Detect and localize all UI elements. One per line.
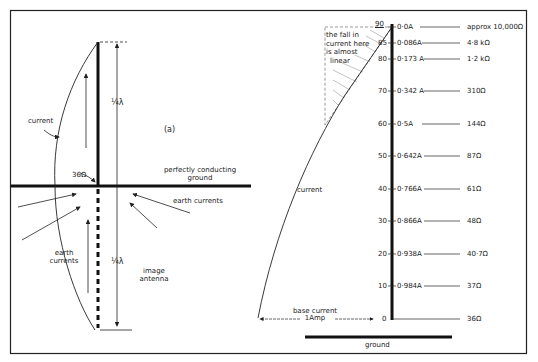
deg-label: 0: [382, 315, 386, 323]
impedance-value: 37Ω: [467, 282, 481, 290]
current-value: 0·984A: [397, 282, 422, 290]
impedance-value: 4·8 kΩ: [467, 39, 490, 47]
current-label: current: [28, 117, 53, 125]
ground-label-right: ground: [365, 341, 390, 349]
impedance-value: 87Ω: [467, 152, 481, 160]
current-value: 0·766A: [397, 185, 422, 193]
deg-label: 80: [378, 55, 387, 63]
earth-currents-right-label: earth currents: [173, 197, 223, 205]
impedance-value: 1·2 kΩ: [467, 55, 490, 63]
current-value: 0·5A: [397, 120, 413, 128]
impedance-value: approx 10,000Ω: [467, 23, 523, 31]
resistance-label: 36Ω: [72, 171, 86, 179]
impedance-value: 40·7Ω: [467, 250, 488, 258]
deg-label: 40: [378, 185, 387, 193]
deg-label: 50: [378, 152, 387, 160]
upper-quarter-wave-label: ¼λ: [111, 99, 124, 107]
earth-currents-left-label: earth currents: [44, 249, 84, 265]
current-value: 0·086A: [397, 39, 422, 47]
linear-fall-note: the fall in current here is almost linea…: [326, 31, 369, 65]
current-value: 0·642A: [397, 152, 422, 160]
deg-label: 30: [378, 217, 387, 225]
impedance-value: 36Ω: [467, 315, 481, 323]
frame-border: [11, 11, 527, 354]
image-antenna-label: image antenna: [134, 267, 174, 283]
deg-label: 85: [378, 39, 387, 47]
lower-quarter-wave-label: ¼λ: [111, 258, 124, 266]
impedance-value: 48Ω: [467, 217, 481, 225]
deg-label: 10: [378, 282, 387, 290]
impedance-value: 144Ω: [467, 120, 486, 128]
current-value: 0·342 A: [397, 87, 424, 95]
left-antenna-diagram: [11, 42, 251, 330]
base-current-label: base current 1Amp: [280, 308, 350, 322]
right-antenna-diagram: [258, 24, 460, 337]
current-value: 0·866A: [397, 217, 422, 225]
impedance-value: 61Ω: [467, 185, 481, 193]
current-value: 0·173 A: [397, 55, 424, 63]
current-value: 0·0A: [397, 23, 413, 31]
deg-label: 20: [378, 250, 387, 258]
deg-label: 60: [378, 120, 387, 128]
ground-label: perfectly conducting ground: [150, 166, 250, 182]
diagram-canvas: [0, 0, 538, 362]
current-value: 0·938A: [397, 250, 422, 258]
figure-label: (a): [164, 126, 175, 134]
impedance-value: 310Ω: [467, 87, 486, 95]
deg-label: 70: [378, 87, 387, 95]
deg-label: 90: [375, 20, 384, 28]
current-label-right: current: [297, 186, 322, 194]
